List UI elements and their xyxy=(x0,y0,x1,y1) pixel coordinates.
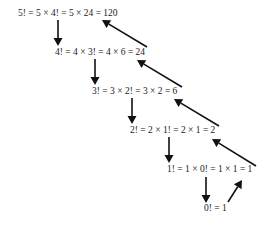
call-arrow-4-to-3 xyxy=(91,59,100,85)
call-arrow-3-to-2-arrowhead-icon xyxy=(128,116,137,124)
return-arrow-2-to-3-shaft xyxy=(181,103,219,126)
factorial-recursion-diagram: 5! = 5 × 4! = 5 × 24 = 120 4! = 4 × 3! =… xyxy=(0,0,276,226)
call-arrow-4-to-3-arrowhead-icon xyxy=(91,77,100,85)
return-arrow-4-to-5 xyxy=(102,20,147,47)
return-arrow-0-to-1 xyxy=(228,180,242,202)
call-arrow-5-to-4-arrowhead-icon xyxy=(54,38,63,46)
return-arrow-2-to-3 xyxy=(174,99,219,126)
call-arrow-1-to-0 xyxy=(202,177,211,203)
call-arrow-3-to-2 xyxy=(128,98,137,124)
equation-0-factorial: 0! = 1 xyxy=(204,203,227,213)
return-arrow-1-to-2 xyxy=(212,139,256,166)
equation-1-factorial: 1! = 1 × 0! = 1 × 1 = 1 xyxy=(167,164,253,174)
return-arrow-3-to-4 xyxy=(137,60,182,87)
call-arrow-2-to-1-arrowhead-icon xyxy=(165,155,174,163)
return-arrow-4-to-5-shaft xyxy=(109,24,147,47)
call-arrow-5-to-4 xyxy=(54,20,63,46)
equation-5-factorial: 5! = 5 × 4! = 5 × 24 = 120 xyxy=(18,8,118,18)
equation-4-factorial: 4! = 4 × 3! = 4 × 6 = 24 xyxy=(55,47,145,57)
equation-2-factorial: 2! = 2 × 1! = 2 × 1 = 2 xyxy=(130,125,216,135)
return-arrow-0-to-1-shaft xyxy=(228,187,238,202)
return-arrow-3-to-4-shaft xyxy=(144,64,182,87)
call-arrow-2-to-1 xyxy=(165,137,174,163)
return-arrow-1-to-2-shaft xyxy=(219,143,256,166)
call-arrow-1-to-0-arrowhead-icon xyxy=(202,195,211,203)
equation-3-factorial: 3! = 3 × 2! = 3 × 2 = 6 xyxy=(92,86,178,96)
